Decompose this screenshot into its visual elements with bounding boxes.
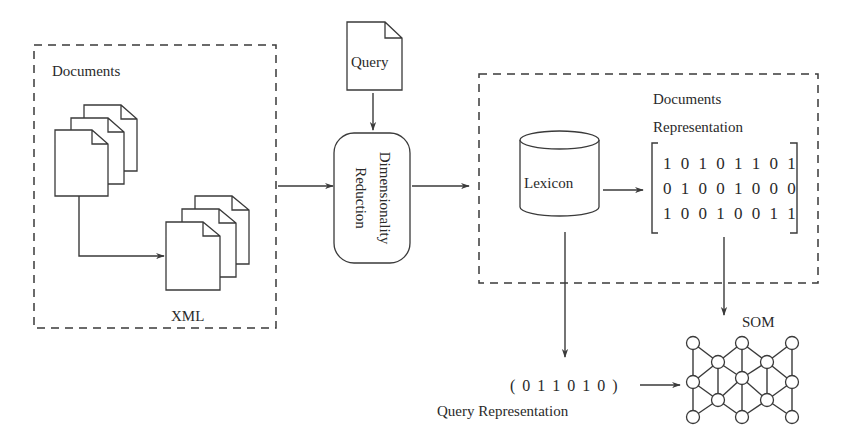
xml-label: XML	[171, 308, 204, 324]
query-representation: ( 0 1 1 0 1 0 ) Query Representation	[437, 377, 619, 419]
dimensionality-reduction-box: Dimensionality Reduction	[334, 133, 410, 263]
convert-to-xml-arrow	[79, 196, 164, 256]
query-document: Query	[347, 22, 402, 90]
matrix-left-bracket	[652, 143, 658, 233]
query-vector: ( 0 1 1 0 1 0 )	[510, 377, 619, 395]
matrix-row-2: 0 1 0 0 1 0 0 0	[663, 179, 798, 198]
lexicon-database-icon	[520, 131, 599, 216]
documents-representation-title-2: Representation	[653, 119, 743, 135]
reduction-label-line2: Reduction	[353, 167, 369, 229]
xml-document-stack-icon	[166, 196, 249, 290]
representation-group: Lexicon Documents Representation 1 0 1 0…	[479, 74, 818, 283]
matrix-row-1: 1 0 1 0 1 1 0 1	[663, 154, 798, 173]
reduction-label-line1: Dimensionality	[377, 152, 393, 245]
documents-group: Documents XML	[34, 45, 276, 328]
query-representation-label: Query Representation	[437, 403, 569, 419]
document-stack-icon	[55, 105, 137, 196]
query-label: Query	[351, 54, 389, 70]
som-network-icon	[687, 337, 799, 424]
pipeline-diagram: Documents XML Query Dimensionality Reduc…	[0, 0, 852, 444]
reduction-rounded-rect	[334, 133, 410, 263]
som-label: SOM	[742, 314, 775, 330]
documents-representation-title-1: Documents	[653, 91, 721, 107]
documents-title: Documents	[52, 63, 120, 79]
lexicon-label: Lexicon	[524, 175, 574, 191]
matrix-row-3: 1 0 0 1 0 0 1 1	[663, 204, 798, 223]
